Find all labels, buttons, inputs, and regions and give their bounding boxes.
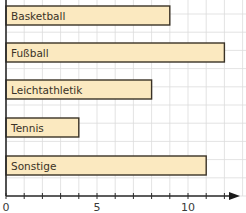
bar-4: Sonstige: [6, 156, 206, 175]
bar-2: Leichtathletik: [6, 80, 152, 99]
bar-label: Tennis: [10, 122, 44, 134]
bar-label: Fußball: [11, 47, 49, 59]
bar-label: Basketball: [11, 10, 65, 22]
bar-3: Tennis: [6, 118, 79, 137]
bar-label: Sonstige: [11, 160, 56, 172]
bar-0: Basketball: [6, 6, 170, 25]
bar-1: Fußball: [6, 43, 224, 62]
bar-label: Leichtathletik: [11, 84, 83, 96]
x-axis-arrow-icon: [229, 192, 240, 200]
x-tick-label: 5: [94, 201, 101, 213]
x-tick-label: 10: [181, 201, 195, 213]
bar-chart: BasketballFußballLeichtathletikTennisSon…: [0, 0, 246, 213]
x-tick-label: 0: [3, 201, 10, 213]
